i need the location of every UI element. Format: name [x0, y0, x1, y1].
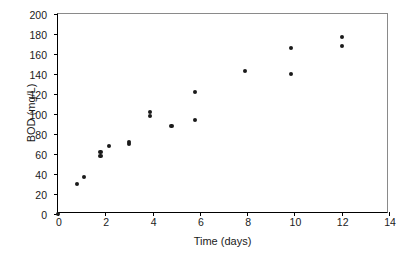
y-axis-tick: 200 [54, 14, 58, 15]
y-axis-tick-label: 80 [35, 130, 47, 141]
x-axis-tick: 14 [389, 212, 390, 216]
y-axis-title: BOD (mg/L) [26, 84, 37, 143]
y-axis-tick: 140 [54, 74, 58, 75]
data-point [98, 150, 102, 154]
x-axis-tick: 2 [105, 212, 106, 216]
data-point [340, 44, 344, 48]
y-axis-tick: 60 [54, 154, 58, 155]
data-point [289, 72, 293, 76]
y-axis-tick: 100 [54, 114, 58, 115]
x-axis-tick: 12 [342, 212, 343, 216]
x-axis-tick: 6 [200, 212, 201, 216]
data-point [148, 110, 152, 114]
x-axis-tick-label: 2 [103, 217, 109, 228]
data-point [107, 144, 111, 148]
bod-vs-time-scatter-chart: 020406080100120140160180200 02468101214 … [0, 0, 405, 259]
x-axis-tick-label: 6 [198, 217, 204, 228]
data-point [75, 182, 79, 186]
x-axis-tick-label: 8 [245, 217, 251, 228]
x-axis-tick-label: 10 [290, 217, 302, 228]
data-point [193, 118, 197, 122]
y-axis-tick: 20 [54, 194, 58, 195]
data-point [193, 90, 197, 94]
y-axis-tick: 40 [54, 174, 58, 175]
x-axis-tick-label: 0 [56, 217, 62, 228]
y-axis-tick: 80 [54, 134, 58, 135]
data-point [169, 124, 173, 128]
data-point [98, 154, 102, 158]
data-point [148, 114, 152, 118]
data-point [289, 46, 293, 50]
y-axis-tick-label: 20 [35, 190, 47, 201]
x-axis-tick-label: 14 [384, 217, 396, 228]
data-point [340, 35, 344, 39]
y-axis-tick: 160 [54, 54, 58, 55]
y-axis-tick-label: 140 [29, 70, 47, 81]
data-point [82, 175, 86, 179]
data-point [243, 69, 247, 73]
x-axis-tick-label: 12 [337, 217, 349, 228]
plot-area: 020406080100120140160180200 02468101214 [57, 13, 388, 213]
y-axis-tick-label: 40 [35, 170, 47, 181]
y-axis-tick-label: 0 [41, 210, 47, 221]
y-axis-tick-label: 160 [29, 50, 47, 61]
y-axis-tick: 120 [54, 94, 58, 95]
x-axis-tick: 10 [294, 212, 295, 216]
y-axis-tick-label: 200 [29, 10, 47, 21]
y-axis-tick: 180 [54, 34, 58, 35]
x-axis-tick: 4 [153, 212, 154, 216]
x-axis-tick: 8 [247, 212, 248, 216]
x-axis-title: Time (days) [57, 236, 388, 247]
y-axis-tick-label: 180 [29, 30, 47, 41]
x-axis-tick-label: 4 [151, 217, 157, 228]
y-axis-tick-label: 60 [35, 150, 47, 161]
